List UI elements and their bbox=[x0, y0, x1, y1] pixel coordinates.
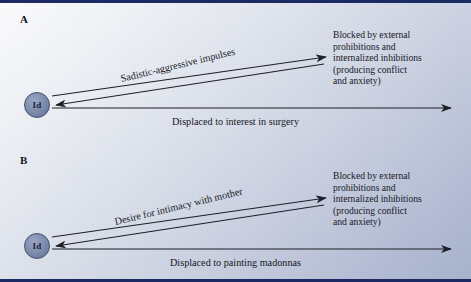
blocked-text-line: internalized inhibitions bbox=[333, 52, 469, 64]
blocked-text-line: internalized inhibitions bbox=[333, 193, 469, 205]
impulse-arrow-blocked-return bbox=[56, 205, 324, 246]
impulse-arrow-blocked-return bbox=[56, 64, 324, 105]
blocked-text-line: (producing conflict bbox=[333, 205, 469, 217]
figure-panel-container: A Id Blocked b bbox=[0, 0, 471, 282]
blocked-text-line: (producing conflict bbox=[333, 64, 469, 76]
blocked-text-b: Blocked by external prohibitions and int… bbox=[333, 170, 469, 228]
panel-b: B Id Blocked by external proh bbox=[0, 144, 471, 282]
id-node-b: Id bbox=[24, 233, 50, 259]
id-node-a: Id bbox=[24, 92, 50, 118]
id-node-label-b: Id bbox=[33, 242, 42, 251]
blocked-text-line: Blocked by external bbox=[333, 170, 469, 182]
panel-a: A Id Blocked b bbox=[0, 3, 471, 144]
displacement-label-b: Displaced to painting madonnas bbox=[0, 257, 471, 268]
blocked-text-line: Blocked by external bbox=[333, 29, 469, 41]
blocked-text-line: and anxiety) bbox=[333, 75, 469, 87]
blocked-text-line: and anxiety) bbox=[333, 216, 469, 228]
blocked-text-line: prohibitions and bbox=[333, 182, 469, 194]
id-node-label-a: Id bbox=[33, 101, 42, 110]
blocked-text-a: Blocked by external prohibitions and int… bbox=[333, 29, 469, 87]
displacement-label-a: Displaced to interest in surgery bbox=[0, 116, 471, 127]
blocked-text-line: prohibitions and bbox=[333, 41, 469, 53]
